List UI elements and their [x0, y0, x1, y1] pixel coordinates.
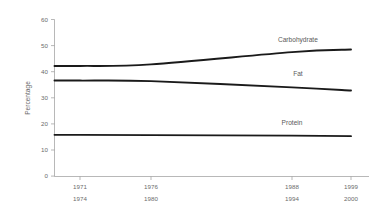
y-tick-label-20: 20 — [41, 120, 48, 127]
chart-container: 60 50 40 30 20 10 0 Percentage 1971 1974… — [0, 0, 389, 217]
series-line-carbohydrate — [55, 50, 352, 67]
series-label-protein: Protein — [282, 119, 303, 126]
y-tick-label-10: 10 — [41, 146, 48, 153]
line-chart: 60 50 40 30 20 10 0 Percentage 1971 1974… — [0, 0, 389, 217]
x-tick-label-3-top: 1988 — [285, 183, 299, 190]
x-tick-label-2-bottom: 1980 — [144, 195, 158, 202]
series-label-fat: Fat — [293, 70, 303, 77]
series-label-carbohydrate: Carbohydrate — [278, 36, 318, 44]
y-tick-label-50: 50 — [41, 42, 48, 49]
series-line-protein — [55, 135, 352, 136]
y-tick-label-0: 0 — [45, 172, 49, 179]
x-tick-label-1-top: 1971 — [73, 183, 87, 190]
x-tick-label-1-bottom: 1974 — [73, 195, 87, 202]
x-tick-label-3-bottom: 1994 — [285, 195, 299, 202]
y-tick-label-60: 60 — [41, 16, 48, 23]
y-axis-title: Percentage — [24, 81, 32, 115]
series-line-fat — [55, 80, 352, 90]
y-tick-label-30: 30 — [41, 94, 48, 101]
x-tick-label-4-bottom: 2000 — [344, 195, 358, 202]
y-tick-label-40: 40 — [41, 68, 48, 75]
x-tick-label-2-top: 1976 — [144, 183, 158, 190]
x-tick-label-4-top: 1999 — [344, 183, 358, 190]
